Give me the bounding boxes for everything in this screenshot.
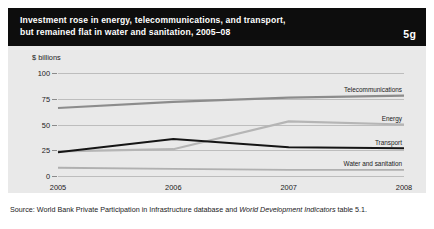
source-prefix: Source: World Bank Private Participation…: [10, 205, 239, 214]
y-tick-label-25: 25: [10, 146, 50, 155]
y-tick-mark-75: [52, 99, 57, 100]
y-tick-mark-50: [52, 125, 57, 126]
series-label-telecommunications: Telecommunications: [344, 86, 402, 93]
y-tick-label-0: 0: [10, 172, 50, 181]
y-tick-mark-100: [52, 73, 57, 74]
chart-title: Investment rose in energy, telecommunica…: [20, 14, 370, 39]
x-tick-label-2005: 2005: [28, 183, 88, 192]
x-tick-label-2006: 2006: [143, 183, 203, 192]
y-tick-mark-25: [52, 150, 57, 151]
y-axis-unit-label: $ billions: [32, 53, 61, 62]
x-tick-label-2007: 2007: [259, 183, 319, 192]
y-tick-mark-0: [52, 176, 57, 177]
chart-figure: Investment rose in energy, telecommunica…: [0, 0, 434, 229]
gridline-0: [58, 176, 404, 177]
y-tick-label-50: 50: [10, 120, 50, 129]
figure-number-badge: 5g: [403, 28, 416, 40]
y-tick-label-100: 100: [10, 69, 50, 78]
series-label-water-and-sanitation: Water and sanitation: [344, 160, 402, 167]
line-water-and-sanitation: [58, 168, 404, 170]
source-italic-title: World Development Indicators: [239, 205, 335, 214]
series-label-transport: Transport: [375, 139, 402, 146]
chart-header-banner: Investment rose in energy, telecommunica…: [8, 8, 426, 46]
x-tick-label-2008: 2008: [374, 183, 434, 192]
line-telecommunications: [58, 96, 404, 108]
y-tick-label-75: 75: [10, 94, 50, 103]
series-label-energy: Energy: [382, 115, 402, 122]
plot-panel: $ billions 0255075100 2005200620072008 T…: [8, 46, 426, 193]
source-note: Source: World Bank Private Participation…: [10, 205, 367, 214]
source-suffix: table 5.1.: [335, 205, 367, 214]
plot-area: 0255075100 2005200620072008 Telecommunic…: [58, 73, 404, 176]
